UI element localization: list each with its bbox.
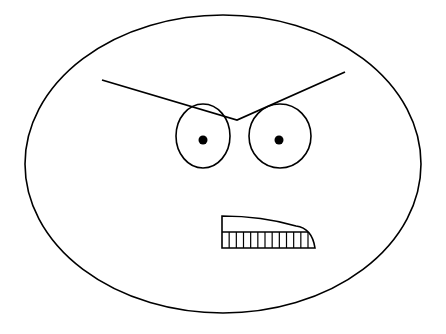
- eyebrows: [102, 72, 345, 120]
- mouth: [222, 216, 320, 248]
- left-pupil: [199, 136, 208, 145]
- face-outline: [25, 15, 421, 313]
- right-pupil: [275, 136, 284, 145]
- teeth: [222, 232, 320, 248]
- angry-face-drawing: [0, 0, 446, 334]
- eyes: [176, 104, 311, 168]
